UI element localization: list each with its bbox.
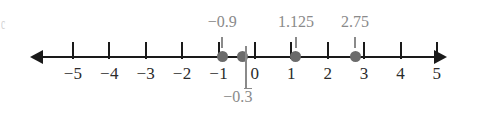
axis-tick [145, 42, 147, 59]
number-line-figure: c −5−4−3−2−1012345 −0.9−0.31.1252.75 [0, 0, 479, 119]
axis-tick [327, 42, 329, 59]
point-annotation-stub [354, 37, 356, 48]
axis-tick [400, 42, 402, 59]
axis-tick-label: −1 [199, 64, 239, 84]
axis-tick-label: −5 [53, 64, 93, 84]
axis-tick [72, 42, 74, 59]
axis-tick-label: 4 [381, 64, 421, 84]
point-annotation-stub [221, 37, 223, 48]
axis-tick [436, 42, 438, 59]
axis-tick-label: 1 [271, 64, 311, 84]
point-annotation-label: 2.75 [320, 13, 390, 31]
plotted-point-dot[interactable] [290, 51, 301, 62]
point-annotation-label: −0.9 [187, 13, 257, 31]
axis-tick-label: 2 [308, 64, 348, 84]
axis-tick-label: −3 [126, 64, 166, 84]
plotted-point-dot[interactable] [350, 51, 361, 62]
point-annotation-leader-line [245, 46, 247, 88]
axis-tick [363, 42, 365, 59]
axis-tick [254, 42, 256, 59]
axis-tick-label: −4 [89, 64, 129, 84]
point-annotation-stub [295, 37, 297, 48]
point-annotation-label: −0.3 [198, 88, 278, 106]
plotted-point-dot[interactable] [217, 51, 228, 62]
axis-tick-label: −2 [162, 64, 202, 84]
axis-tick-label: 0 [235, 64, 275, 84]
axis-tick [181, 42, 183, 59]
repeating-decimal-overline: 3 [244, 88, 252, 105]
axis-tick-label: 5 [417, 64, 457, 84]
page-edge-artifact: c [1, 14, 5, 34]
axis-tick-label: 3 [344, 64, 384, 84]
arrow-left-icon [30, 50, 43, 64]
axis-tick [108, 42, 110, 59]
